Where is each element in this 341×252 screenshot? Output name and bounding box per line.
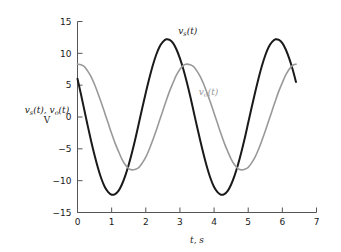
y-tick-label: 15: [60, 17, 71, 27]
x-tick-label: 1: [109, 217, 115, 227]
x-axis-title: t, s: [190, 235, 204, 245]
chart-figure: 151050−5−10−1501234567 vs(t)vo(t) vs(t),…: [0, 0, 341, 252]
x-tick-label: 7: [314, 217, 320, 227]
x-tick-label: 0: [75, 217, 81, 227]
x-tick-label: 6: [279, 217, 285, 227]
x-tick-label: 3: [177, 217, 183, 227]
x-tick-label: 5: [245, 217, 251, 227]
figure-background: [0, 0, 341, 252]
y-tick-label: −15: [53, 208, 72, 218]
chart-canvas: 151050−5−10−1501234567 vs(t)vo(t) vs(t),…: [0, 0, 341, 252]
x-tick-label: 2: [143, 217, 149, 227]
y-tick-label: 10: [60, 49, 72, 59]
y-axis-unit: V: [43, 115, 51, 125]
plot-area: 151050−5−10−1501234567 vs(t)vo(t): [0, 0, 341, 252]
y-tick-label: −5: [58, 144, 71, 154]
y-tick-label: 5: [66, 80, 72, 90]
x-tick-label: 4: [211, 217, 217, 227]
y-tick-label: −10: [53, 176, 72, 186]
